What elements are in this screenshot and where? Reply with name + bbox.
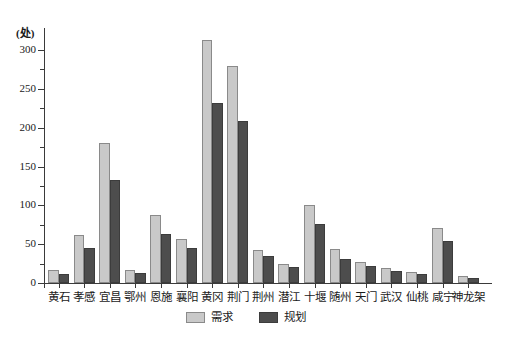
legend-item-demand[interactable]: 需求 — [186, 311, 233, 323]
bar-demand-7 — [227, 66, 238, 283]
bar-plan-13 — [391, 271, 402, 283]
legend-label-demand: 需求 — [211, 311, 233, 323]
bar-demand-8 — [253, 250, 264, 283]
bar-plan-6 — [212, 103, 223, 283]
bar-plan-3 — [135, 273, 146, 283]
bar-demand-16 — [458, 276, 469, 283]
bar-demand-4 — [150, 215, 161, 283]
bar-demand-1 — [74, 235, 85, 283]
bar-plan-11 — [340, 259, 351, 283]
legend-swatch-plan-icon — [259, 312, 278, 323]
legend-swatch-demand-icon — [186, 312, 205, 323]
bar-plan-15 — [443, 241, 454, 283]
bar-demand-11 — [330, 249, 341, 283]
bar-demand-13 — [381, 268, 392, 283]
bar-plan-14 — [417, 274, 428, 283]
bar-plan-10 — [315, 224, 326, 283]
bar-plan-16 — [468, 278, 479, 283]
bar-demand-5 — [176, 239, 187, 283]
legend-item-plan[interactable]: 规划 — [259, 311, 306, 323]
bar-plan-7 — [238, 121, 249, 283]
chart-legend: 需求 规划 — [186, 311, 306, 323]
bar-demand-10 — [304, 205, 315, 283]
bar-demand-12 — [355, 262, 366, 283]
category-label-16: 神龙架 — [444, 290, 492, 304]
bar-demand-14 — [406, 272, 417, 283]
bar-plan-5 — [187, 248, 198, 283]
bar-demand-6 — [202, 40, 213, 283]
bar-plan-8 — [263, 256, 274, 283]
bar-plan-1 — [84, 248, 95, 283]
bar-demand-15 — [432, 228, 443, 283]
bar-demand-9 — [278, 264, 289, 283]
bar-plan-0 — [59, 274, 70, 283]
bar-plan-9 — [289, 267, 300, 283]
bar-demand-0 — [48, 270, 59, 283]
bar-chart: (处) 050100150200250300 黄石孝感宜昌鄂州恩施襄阳黄冈荆门荆… — [0, 0, 513, 345]
bar-demand-3 — [125, 270, 136, 283]
bar-plan-12 — [366, 266, 377, 283]
bar-plan-4 — [161, 234, 172, 283]
legend-label-plan: 规划 — [284, 311, 306, 323]
bar-demand-2 — [99, 143, 110, 283]
bar-plan-2 — [110, 180, 121, 283]
